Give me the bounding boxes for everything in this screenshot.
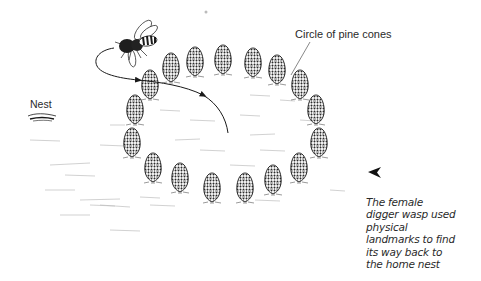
pine-cone xyxy=(264,165,282,195)
pine-cone xyxy=(214,45,232,75)
wasp-illustration xyxy=(115,18,159,68)
pine-cone xyxy=(236,173,254,203)
pointer-arrow-icon xyxy=(368,167,382,179)
pine-cone xyxy=(171,163,189,193)
pine-cone xyxy=(162,53,180,83)
pine-cone xyxy=(123,128,141,158)
pine-cone xyxy=(144,153,162,183)
pine-cones-label: Circle of pine cones xyxy=(295,28,392,40)
pine-cone xyxy=(126,95,144,125)
pine-cone xyxy=(141,70,159,100)
pine-cone-circle xyxy=(123,45,328,203)
caption-line: digger wasp used xyxy=(366,208,481,220)
caption-line: the home nest xyxy=(366,258,481,270)
pine-cone xyxy=(291,70,309,100)
nest-label: Nest xyxy=(30,98,52,110)
pine-cone xyxy=(244,48,262,78)
nest-mark xyxy=(28,114,56,121)
pine-cone xyxy=(290,153,308,183)
pine-cone xyxy=(268,55,286,85)
speck xyxy=(205,11,208,14)
caption: The female digger wasp used physical lan… xyxy=(366,196,481,270)
pine-cone xyxy=(186,47,204,77)
caption-line: The female xyxy=(366,196,481,208)
pine-cone xyxy=(203,173,221,203)
caption-line: landmarks to find xyxy=(366,233,481,245)
flight-path xyxy=(96,48,228,133)
pine-cone xyxy=(310,128,328,158)
caption-line: its way back to xyxy=(366,246,481,258)
caption-line: physical xyxy=(366,221,481,233)
